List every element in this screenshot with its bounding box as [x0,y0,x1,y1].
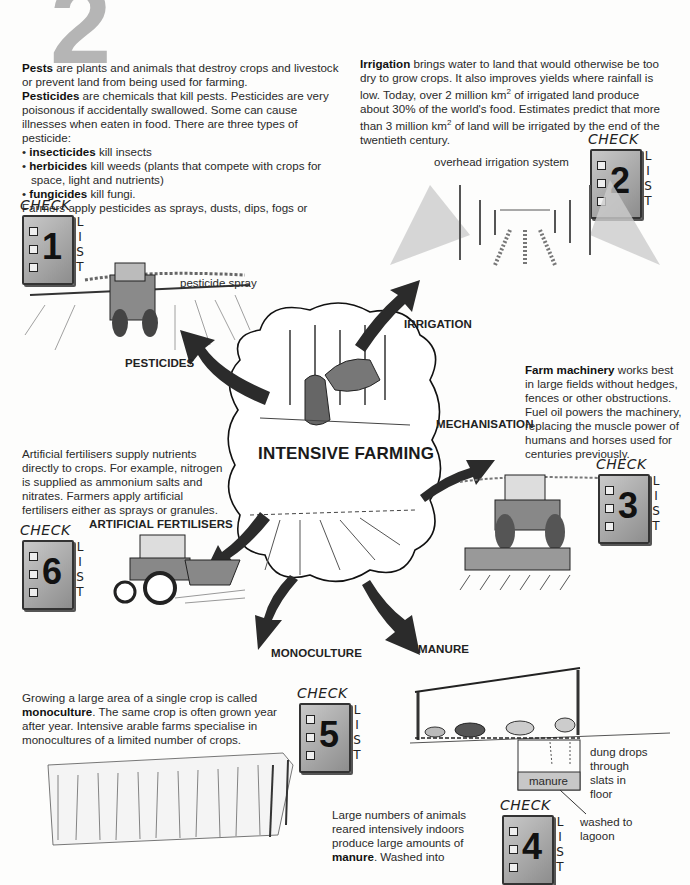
label-monoculture: MONOCULTURE [271,647,362,659]
manure-text: Large numbers of animals reared intensiv… [332,808,497,864]
label-artificial-fertilisers: ARTIFICIAL FERTILISERS [89,518,233,530]
wheat-field-illustration [48,745,293,850]
label-mechanisation: MECHANISATION [436,418,534,430]
farm-machinery-term: Farm machinery [525,363,615,376]
manure-term: manure [332,850,374,863]
monoculture-term: monoculture [22,705,92,718]
washed-to-lagoon-caption: washed to lagoon [580,815,635,843]
mechanisation-text: Farm machinery works best in large field… [525,363,685,461]
dung-drops-caption: dung drops through slats in floor [590,745,650,801]
tractor-spreader-illustration [105,530,245,605]
label-pesticides: PESTICIDES [125,357,194,369]
label-manure: MANURE [418,643,469,655]
monoculture-text: Growing a large area of a single crop is… [22,691,284,747]
label-irrigation: IRRIGATION [404,318,472,330]
manure-pit-caption: manure [529,774,568,788]
fertilisers-text: Artificial fertilisers supply nutrients … [22,447,227,517]
tractor-cultivator-illustration [460,470,600,590]
